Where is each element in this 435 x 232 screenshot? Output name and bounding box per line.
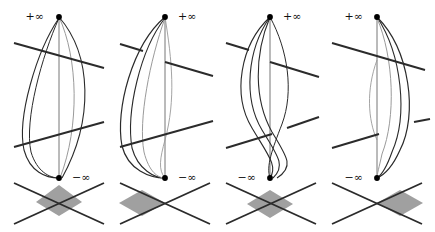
panel-1-plus-infinity-label: +∞ [26,10,44,23]
panel-3-bottom-node [267,175,273,181]
panel-4-plus-infinity-label: +∞ [345,10,363,23]
panel-2-top-node [162,14,168,20]
panel-2-plus-infinity-label: +∞ [178,10,196,23]
panel-4-minus-infinity-label: −∞ [345,171,363,184]
panel-1-top-node [56,14,62,20]
panel-1-minus-infinity-label: −∞ [72,171,90,184]
panel-4-bottom-node [374,175,380,181]
panel-2-minus-infinity-label: −∞ [178,171,196,184]
panel-3-minus-infinity-label: −∞ [238,171,256,184]
panel-4-top-node [374,14,380,20]
panel-3-top-node [267,14,273,20]
diagram-canvas: +∞ −∞ +∞ −∞ [0,0,435,232]
panel-2-bottom-node [162,175,168,181]
panel-1-bottom-node [56,175,62,181]
figure-container: +∞ −∞ +∞ −∞ [0,0,435,232]
panel-3-plus-infinity-label: +∞ [283,10,301,23]
